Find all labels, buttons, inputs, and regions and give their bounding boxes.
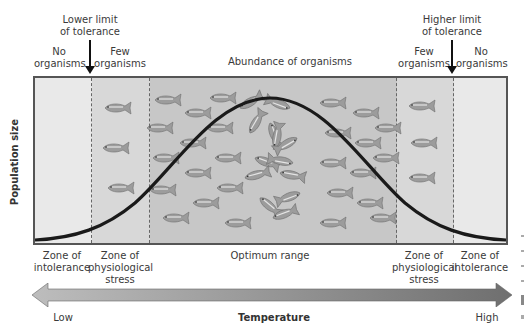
temperature-arrow-icon bbox=[32, 283, 512, 307]
zone-label-optimum: Optimum range bbox=[220, 250, 320, 262]
page-edge-marks bbox=[520, 230, 525, 330]
tolerance-chart bbox=[33, 76, 508, 245]
no-organisms-right-label: No organisms bbox=[456, 46, 506, 70]
zone-label-intolerance-low: Zone of intolerance bbox=[32, 250, 92, 274]
fish-icons bbox=[103, 90, 437, 229]
few-organisms-right-label: Few organisms bbox=[398, 46, 450, 70]
fish-and-curve bbox=[35, 78, 506, 243]
y-axis-label: Population size bbox=[2, 112, 26, 212]
tolerance-curve bbox=[35, 98, 506, 240]
x-axis-label: Temperature bbox=[238, 312, 310, 323]
higher-limit-arrow bbox=[451, 40, 453, 66]
zone-label-stress-high: Zone of physiological stress bbox=[392, 250, 456, 286]
x-high-label: High bbox=[472, 312, 502, 324]
lower-limit-arrowhead-icon bbox=[85, 66, 95, 74]
zone-label-stress-low: Zone of physiological stress bbox=[88, 250, 152, 286]
higher-limit-arrowhead-icon bbox=[447, 66, 457, 74]
no-organisms-left-label: No organisms bbox=[34, 46, 84, 70]
lower-limit-arrow bbox=[89, 40, 91, 66]
lower-limit-label: Lower limit of tolerance bbox=[60, 14, 120, 38]
few-organisms-left-label: Few organisms bbox=[94, 46, 146, 70]
zone-label-intolerance-high: Zone of intolerance bbox=[450, 250, 510, 274]
x-low-label: Low bbox=[48, 312, 78, 324]
higher-limit-label: Higher limit of tolerance bbox=[422, 14, 482, 38]
abundance-label: Abundance of organisms bbox=[210, 56, 370, 68]
